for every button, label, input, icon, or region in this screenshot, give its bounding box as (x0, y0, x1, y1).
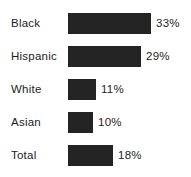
category-label: Asian (11, 112, 41, 133)
value-label: 33% (156, 13, 180, 34)
bar-track (68, 79, 96, 100)
value-label: 11% (101, 79, 124, 100)
bar-fill (68, 46, 141, 67)
bar-fill (68, 13, 151, 34)
value-label: 10% (98, 112, 122, 133)
bar-row: Total18% (0, 145, 191, 166)
bar-fill (68, 79, 96, 100)
value-label: 18% (118, 145, 142, 166)
bar-row: Black33% (0, 13, 191, 34)
bar-track (68, 46, 141, 67)
bar-track (68, 13, 151, 34)
category-label: Total (11, 145, 36, 166)
bar-fill (68, 112, 93, 133)
bar-track (68, 112, 93, 133)
bar-track (68, 145, 113, 166)
category-label: White (11, 79, 42, 100)
category-label: Hispanic (11, 46, 57, 67)
bar-fill (68, 145, 113, 166)
bar-row: Asian10% (0, 112, 191, 133)
category-label: Black (11, 13, 40, 34)
bar-row: Hispanic29% (0, 46, 191, 67)
value-label: 29% (146, 46, 170, 67)
bar-chart: Black33%Hispanic29%White11%Asian10%Total… (0, 0, 191, 177)
bar-row: White11% (0, 79, 191, 100)
